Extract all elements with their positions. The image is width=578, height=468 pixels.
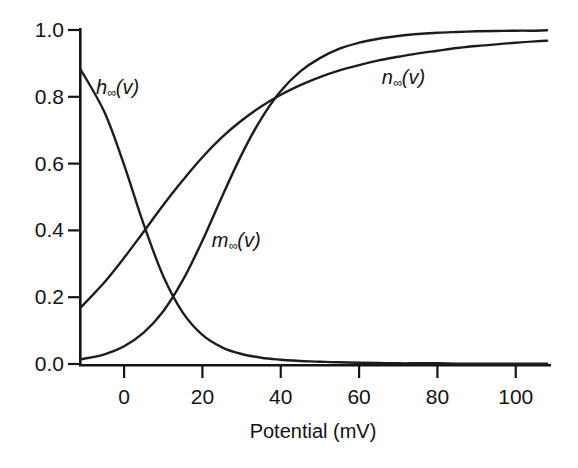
y-tick-label: 0.8: [18, 85, 64, 109]
x-axis-title: Potential (mV): [249, 419, 377, 443]
m-symbol: m: [212, 229, 229, 251]
infinity-subscript: ∞: [228, 239, 237, 253]
x-tick-label: 40: [251, 385, 311, 409]
x-tick-label: 80: [407, 385, 467, 409]
y-tick-label: 0.6: [18, 152, 64, 176]
y-tick-label: 1.0: [18, 18, 64, 42]
y-tick-label: 0.2: [18, 285, 64, 309]
curve-label-n-infinity: n∞(v): [382, 65, 425, 89]
n-symbol: n: [382, 66, 393, 88]
x-tick-label: 60: [329, 385, 389, 409]
labels-layer: h∞(v) m∞(v) n∞(v) Potential (mV) 0.00.20…: [0, 0, 578, 468]
infinity-subscript: ∞: [393, 75, 402, 89]
infinity-subscript: ∞: [107, 85, 116, 99]
n-argument: (v): [402, 66, 425, 88]
h-argument: (v): [116, 76, 139, 98]
curve-label-m-infinity: m∞(v): [212, 228, 261, 252]
y-tick-label: 0.4: [18, 218, 64, 242]
x-tick-label: 100: [486, 385, 546, 409]
m-argument: (v): [237, 229, 260, 251]
x-tick-label: 0: [94, 385, 154, 409]
x-tick-label: 20: [172, 385, 232, 409]
y-tick-label: 0.0: [18, 352, 64, 376]
curve-label-h-infinity: h∞(v): [96, 75, 139, 99]
h-symbol: h: [96, 76, 107, 98]
hh-steady-state-gating-figure: h∞(v) m∞(v) n∞(v) Potential (mV) 0.00.20…: [0, 0, 578, 468]
